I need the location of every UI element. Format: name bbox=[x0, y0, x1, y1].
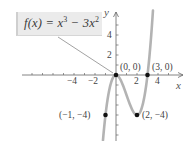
y-axis-label: y bbox=[104, 6, 109, 18]
point-3-0 bbox=[145, 73, 150, 78]
point-label-2-neg4: (2, −4) bbox=[142, 110, 168, 120]
x-axis-label: x bbox=[176, 79, 181, 91]
x-tick-label-4: 4 bbox=[155, 76, 160, 86]
point-label-neg1-neg4: (−1, −4) bbox=[59, 110, 90, 120]
y-tick-label-4: 4 bbox=[107, 30, 112, 40]
point-label-3-0: (3, 0) bbox=[152, 62, 173, 72]
x-tick-label-neg2: −2 bbox=[88, 76, 98, 86]
x-tick-label-neg4: −4 bbox=[67, 76, 77, 86]
y-tick-label-2: 2 bbox=[107, 50, 112, 60]
label-leader-line bbox=[58, 37, 113, 73]
function-label: f(x) = x3 − 3x2 bbox=[24, 15, 99, 31]
point-2-neg4 bbox=[135, 113, 140, 118]
point-neg1-neg4 bbox=[103, 113, 108, 118]
x-tick-label-2: 2 bbox=[134, 76, 139, 86]
point-origin bbox=[114, 73, 119, 78]
function-graph: f(x) = x3 − 3x2 y x −4 −2 2 4 2 4 (0, 0)… bbox=[0, 0, 192, 141]
point-label-origin: (0, 0) bbox=[120, 62, 141, 72]
